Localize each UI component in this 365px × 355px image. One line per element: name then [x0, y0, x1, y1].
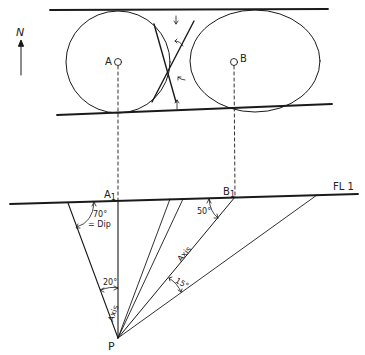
ray-line-3 — [118, 199, 170, 338]
point-b-marker — [231, 59, 238, 66]
point-a-label: A — [105, 56, 112, 67]
compression-arrow-top — [174, 16, 178, 24]
dip-angle-label: 70° — [93, 210, 107, 219]
rotation-arrow-lower — [178, 77, 185, 80]
diagram-canvas: N A B A1 B1 FL 1 P 70° = Dip 50° 20° 15°… — [0, 0, 365, 355]
axis-label-right: Axis — [176, 245, 194, 264]
ellipse-b-outline — [190, 10, 320, 112]
projection-line-b — [234, 66, 235, 197]
north-label: N — [16, 26, 24, 39]
ray-line-4 — [118, 199, 183, 338]
fold-line-label: FL 1 — [333, 181, 354, 192]
point-b-label: B — [240, 53, 247, 64]
dip-text-label: = Dip — [88, 220, 111, 229]
a-axis-angle-label: 20° — [103, 278, 117, 287]
north-arrow-icon — [19, 40, 24, 75]
b-angle-label: 50° — [197, 207, 211, 216]
top-boundary-line — [50, 9, 328, 10]
point-p-label: P — [108, 340, 115, 353]
point-a1-label: A1 — [104, 189, 116, 202]
point-a-marker — [115, 59, 122, 66]
b-axis-angle-label: 15° — [174, 276, 191, 291]
